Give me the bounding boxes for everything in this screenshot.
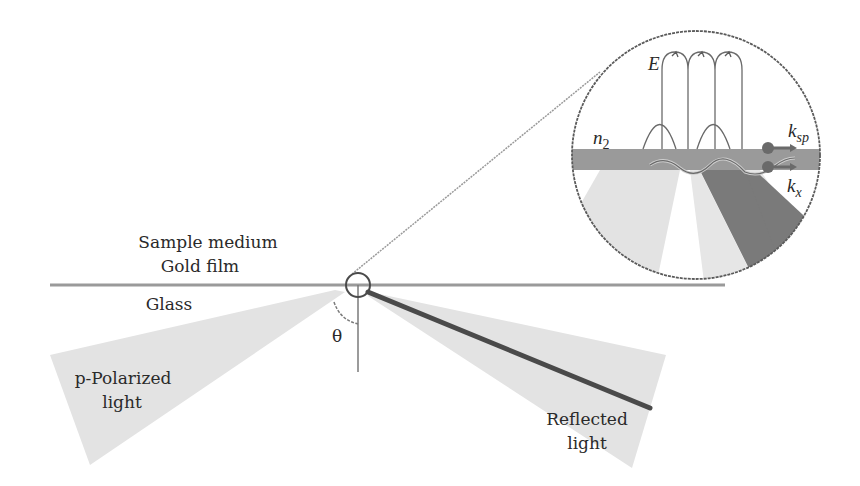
reflected-beam [368,292,666,468]
label-theta: θ [332,326,342,346]
spr-diagram: Sample medium Gold film Glass p-Polarize… [0,0,860,486]
label-reflected-line2: light [567,433,607,453]
label-glass: Glass [146,294,193,314]
label-sample-medium: Sample medium [138,232,277,252]
inset-magnified-view [560,30,830,290]
label-e-field: E [647,53,660,74]
label-incident-line2: light [102,392,142,412]
zoom-leader-line [352,72,600,274]
angle-arc [334,302,358,324]
label-incident-line1: p-Polarized [75,368,172,388]
label-reflected-line1: Reflected [546,409,628,429]
label-gold-film: Gold film [161,256,239,276]
